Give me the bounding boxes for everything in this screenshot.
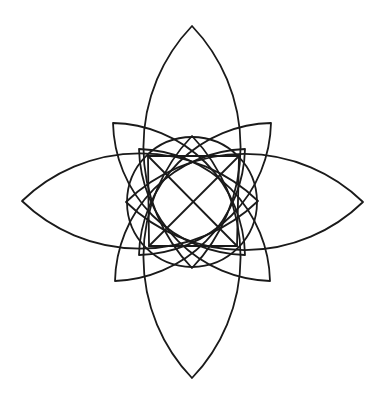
rosette-svg	[0, 0, 383, 400]
rosette-lines	[22, 26, 363, 378]
rosette-figure	[0, 0, 383, 400]
petal-right	[126, 154, 363, 250]
corner-petal-bottom-right	[139, 149, 270, 281]
